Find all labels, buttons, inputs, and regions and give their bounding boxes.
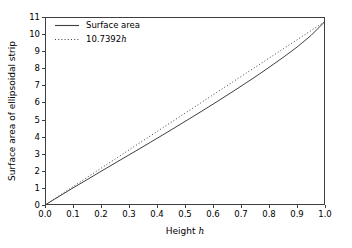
y-tick-mark (42, 102, 45, 103)
x-tick-mark (73, 205, 74, 208)
x-tick-label: 0.4 (150, 209, 164, 219)
y-tick-label: 10 (29, 29, 40, 39)
y-tick-mark (42, 154, 45, 155)
y-tick-label: 2 (35, 166, 40, 176)
x-tick-mark (213, 205, 214, 208)
x-axis-label-variable: h (198, 226, 204, 236)
y-tick-label: 7 (35, 80, 40, 90)
x-tick-mark (325, 205, 326, 208)
x-tick-mark (157, 205, 158, 208)
legend-label-linear-fit-variable: h (121, 34, 126, 44)
legend-item-surface-area: Surface area (55, 20, 140, 31)
x-tick-label: 0.7 (234, 209, 248, 219)
x-axis-label-text: Height (166, 226, 199, 236)
y-tick-mark (42, 137, 45, 138)
legend-dotted-line-icon (55, 35, 79, 44)
x-tick-label: 0.8 (262, 209, 276, 219)
y-tick-mark (42, 171, 45, 172)
y-tick-label: 6 (35, 97, 40, 107)
y-tick-mark (42, 51, 45, 52)
chart-legend: Surface area 10.7392h (55, 20, 140, 45)
x-tick-mark (269, 205, 270, 208)
x-tick-mark (297, 205, 298, 208)
x-tick-label: 0.5 (178, 209, 192, 219)
y-axis-label: Surface area of ellipsoidal strip (6, 17, 18, 205)
y-tick-label: 1 (35, 183, 40, 193)
x-tick-label: 0.9 (290, 209, 304, 219)
y-tick-mark (42, 205, 45, 206)
series-line-linear-fit (45, 21, 325, 205)
y-tick-label: 9 (35, 46, 40, 56)
y-tick-label: 3 (35, 149, 40, 159)
y-tick-mark (42, 68, 45, 69)
y-tick-mark (42, 120, 45, 121)
legend-label-surface-area: Surface area (86, 20, 140, 31)
x-tick-label: 0.3 (122, 209, 136, 219)
y-tick-mark (42, 34, 45, 35)
plot-curves (45, 17, 325, 205)
x-tick-mark (185, 205, 186, 208)
legend-item-linear-fit: 10.7392h (55, 34, 140, 45)
chart-figure: 0.00.10.20.30.40.50.60.70.80.91.0 012345… (0, 0, 352, 248)
x-tick-label: 0.2 (94, 209, 108, 219)
x-tick-label: 0.0 (38, 209, 52, 219)
y-tick-label: 11 (29, 12, 40, 22)
x-tick-mark (45, 205, 46, 208)
legend-solid-line-icon (55, 21, 79, 30)
y-tick-label: 0 (35, 200, 40, 210)
x-axis-label: Height h (45, 226, 325, 237)
y-tick-label: 8 (35, 63, 40, 73)
series-line-surface-area (45, 21, 325, 205)
x-tick-mark (241, 205, 242, 208)
y-tick-mark (42, 188, 45, 189)
legend-label-linear-fit: 10.7392h (86, 34, 127, 45)
y-tick-mark (42, 17, 45, 18)
legend-label-linear-fit-number: 10.7392 (86, 34, 121, 44)
x-tick-label: 0.6 (206, 209, 220, 219)
x-tick-label: 1.0 (318, 209, 332, 219)
x-tick-mark (129, 205, 130, 208)
x-tick-mark (101, 205, 102, 208)
x-tick-label: 0.1 (66, 209, 80, 219)
y-tick-label: 5 (35, 115, 40, 125)
y-tick-mark (42, 85, 45, 86)
y-tick-label: 4 (35, 132, 40, 142)
